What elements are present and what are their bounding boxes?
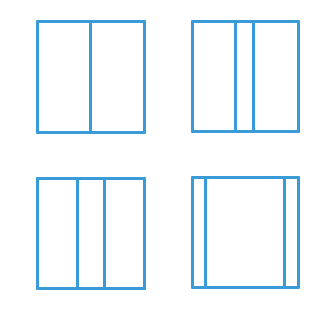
rectangle-figure-top-left [36,20,146,134]
vertical-divider-2 [283,176,286,289]
rectangle-figure-bottom-left [36,177,146,290]
rectangle-figure-bottom-right [191,176,300,289]
rectangle-outline [36,177,146,290]
vertical-divider-2 [103,177,106,290]
vertical-divider-1 [89,20,92,134]
rectangle-figure-top-right [191,20,300,133]
vertical-divider-2 [252,20,255,133]
vertical-divider-1 [76,177,79,290]
vertical-divider-1 [234,20,237,133]
vertical-divider-1 [204,176,207,289]
rectangle-outline [191,20,300,133]
